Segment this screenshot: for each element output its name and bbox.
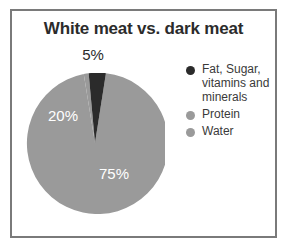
legend-label-water: Water [202,124,234,138]
slice-label-protein: 20% [37,107,89,124]
chart-title: White meat vs. dark meat [10,19,277,39]
legend-item-fat[interactable]: Fat, Sugar, vitamins and minerals [186,62,278,104]
legend-marker-icon-protein [186,111,195,120]
legend-marker-icon-water [186,128,195,137]
legend-marker-icon-fat [186,66,195,75]
slice-label-fat: 5% [72,46,114,63]
legend-label-fat: Fat, Sugar, vitamins and minerals [202,62,278,104]
legend-item-water[interactable]: Water [186,124,278,138]
legend-item-protein[interactable]: Protein [186,107,278,121]
legend-label-protein: Protein [202,107,240,121]
pie-plot-area [25,73,165,214]
slice-label-water: 75% [88,165,140,182]
chart-legend: Fat, Sugar, vitamins and minerals Protei… [186,62,278,141]
pie-chart-figure: White meat vs. dark meat 5% 20% 75% Fat,… [0,0,288,251]
pie-svg [25,73,165,214]
